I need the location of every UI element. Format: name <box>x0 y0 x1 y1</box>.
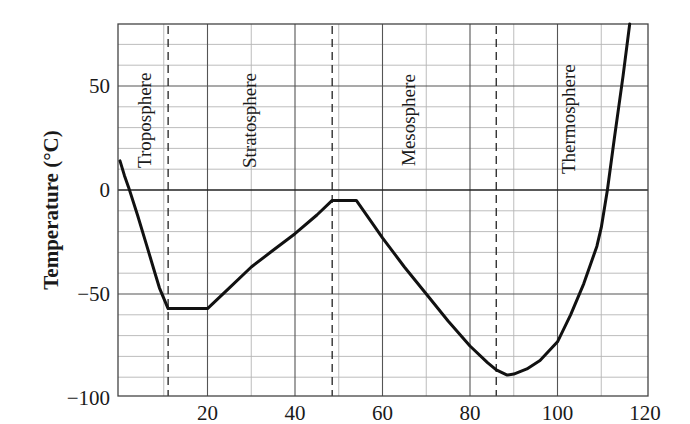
y-tick-label: 50 <box>89 74 110 98</box>
x-tick-label: 100 <box>542 401 574 424</box>
region-labels: Troposphere Stratosphere Mesosphere Ther… <box>134 64 579 174</box>
x-axis-ticks: 20406080100120 <box>197 401 661 424</box>
y-axis-title: Temperature (°C) <box>39 130 63 289</box>
y-tick-label: −100 <box>67 386 110 410</box>
temperature-curve <box>120 24 630 375</box>
temperature-altitude-chart: Troposphere Stratosphere Mesosphere Ther… <box>0 0 690 424</box>
x-tick-label: 20 <box>197 401 218 424</box>
region-label-stratosphere: Stratosphere <box>239 73 260 168</box>
region-label-thermosphere: Thermosphere <box>558 64 579 174</box>
x-tick-label: 40 <box>285 401 306 424</box>
x-tick-label: 60 <box>372 401 393 424</box>
region-label-mesosphere: Mesosphere <box>398 74 419 166</box>
y-tick-label: 0 <box>100 178 111 202</box>
y-axis-ticks: 500−50−100 <box>67 74 110 410</box>
y-tick-label: −50 <box>77 282 110 306</box>
x-tick-label: 120 <box>629 401 661 424</box>
x-tick-label: 80 <box>460 401 481 424</box>
region-label-troposphere: Troposphere <box>134 73 155 168</box>
